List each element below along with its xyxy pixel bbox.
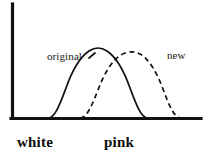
original-series-label: original <box>47 50 82 62</box>
figure-container: original new white pink <box>0 0 211 156</box>
x-axis-label-pink: pink <box>104 134 134 150</box>
distribution-shift-chart: original new white pink <box>0 0 211 156</box>
x-axis-label-white: white <box>17 134 53 150</box>
new-series-label: new <box>167 49 186 61</box>
original-label-leader-line <box>89 53 95 58</box>
